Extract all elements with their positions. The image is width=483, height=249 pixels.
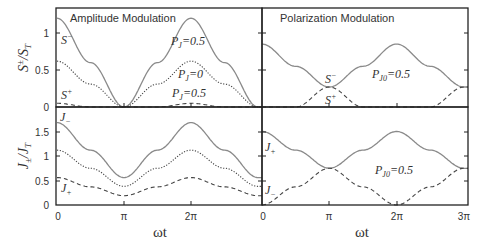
xtick-left-2pi: 2π — [185, 211, 198, 222]
label-pj0-br: PJ0=0.5 — [374, 163, 413, 179]
label-pj0-dotted: PJ=0 — [177, 67, 203, 83]
xtick-left-pi: π — [121, 211, 128, 222]
label-s-plus-tl: S+ — [61, 87, 72, 102]
xlabel-left: ωt — [153, 224, 168, 240]
label-j-plus-br: J+ — [265, 140, 276, 156]
svg-text:J±/JT: J±/JT — [16, 142, 33, 169]
xtick-left-0: 0 — [55, 211, 61, 222]
xtick-right-0: 0 — [260, 211, 266, 222]
curve-bottom-left-dashed — [57, 178, 262, 196]
curve-bottom-left-solid — [57, 123, 262, 178]
xtick-right-pi: π — [326, 211, 333, 222]
curve-top-right-dashed — [262, 87, 468, 107]
panel-bottom-left-frame — [56, 107, 262, 205]
label-j-minus-bl: J− — [60, 110, 71, 126]
xlabel-right: ωt — [355, 224, 370, 240]
title-amplitude-modulation: Amplitude Modulation — [70, 12, 176, 24]
label-s-plus-tr: S+ — [325, 92, 336, 107]
ylabel-top: S±/ST — [15, 43, 33, 72]
label-pj05-solid: PJ=0.5 — [170, 34, 205, 50]
panel-bottom-right-frame — [262, 107, 468, 205]
figure: Amplitude Modulation Polarization Modula… — [0, 0, 483, 249]
svg-text:S±/ST: S±/ST — [15, 43, 33, 72]
ytick-bottom-05: 0.5 — [35, 176, 49, 187]
ytick-top-05: 0.5 — [35, 65, 49, 76]
curve-bottom-right-dashed — [262, 168, 468, 205]
ytick-top-1: 1 — [43, 28, 49, 39]
xtick-right-3pi: 3π — [458, 211, 471, 222]
xtick-right-2pi: 2π — [391, 211, 404, 222]
label-pj05-dashed: PJ=0.5 — [171, 86, 206, 102]
label-pj0-tr: PJ0=0.5 — [371, 67, 410, 83]
curve-bottom-left-dotted — [57, 150, 262, 186]
ylabel-bottom: J±/JT — [16, 142, 33, 169]
label-j-minus-br: J− — [265, 183, 276, 199]
ytick-bottom-15: 1.5 — [35, 127, 49, 138]
curve-top-right-solid — [262, 44, 468, 87]
label-s-minus-tr: S− — [325, 71, 336, 86]
label-s-minus-tl: S− — [61, 32, 72, 47]
curve-top-left-solid — [57, 18, 262, 107]
ytick-bottom-0: 0 — [43, 200, 49, 211]
title-polarization-modulation: Polarization Modulation — [280, 12, 394, 24]
ytick-bottom-1: 1 — [43, 151, 49, 162]
curve-bottom-right-solid — [262, 132, 468, 169]
label-j-plus-bl: J+ — [61, 181, 72, 197]
ytick-top-0: 0 — [43, 102, 49, 113]
